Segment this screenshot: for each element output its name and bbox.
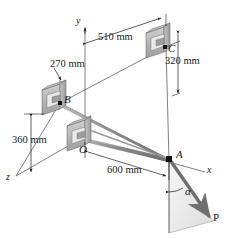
- figure-canvas: y x z O B C A P α 510 mm 270 mm 320 mm 3…: [0, 0, 231, 239]
- dimension-270: 270 mm: [50, 59, 85, 70]
- force-label-p: P: [213, 212, 219, 223]
- dimension-360: 360 mm: [12, 135, 47, 146]
- axis-label-y: y: [76, 16, 80, 26]
- point-label-a: A: [176, 149, 183, 160]
- point-label-o: O: [79, 144, 87, 155]
- dimension-600: 600 mm: [107, 165, 142, 176]
- point-label-b: B: [64, 94, 71, 105]
- point-label-c: C: [168, 43, 175, 54]
- axis-label-z: z: [6, 172, 10, 182]
- dimension-510: 510 mm: [98, 32, 133, 43]
- node-a: [166, 156, 172, 162]
- dimension-320: 320 mm: [165, 56, 200, 67]
- node-b: [58, 101, 62, 105]
- bracket-b: [42, 80, 66, 115]
- axis-label-x: x: [207, 165, 211, 175]
- angle-label-alpha: α: [185, 186, 191, 197]
- dimline-270: [54, 68, 61, 80]
